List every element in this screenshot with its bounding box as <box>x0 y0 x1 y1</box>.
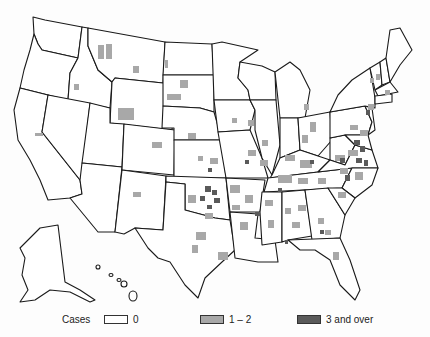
state-mississippi <box>260 192 282 245</box>
state-maine <box>386 28 412 82</box>
state-alaska <box>20 225 95 302</box>
legend-item-3-plus: 3 and over <box>297 314 373 325</box>
legend-item-1-2: 1 – 2 <box>200 314 251 325</box>
state-colorado <box>122 124 175 175</box>
legend-title: Cases <box>62 314 90 325</box>
state-florida <box>288 238 360 300</box>
state-connecticut-ri <box>375 94 392 104</box>
state-new-mexico <box>115 170 166 234</box>
legend-item-0: 0 <box>104 314 139 325</box>
us-county-case-map <box>0 0 430 337</box>
state-iowa <box>214 100 255 132</box>
legend-swatch-zero <box>104 315 128 324</box>
state-hawaii <box>96 265 137 301</box>
state-ohio <box>298 112 332 156</box>
map-legend: Cases 0 1 – 2 3 and over <box>0 310 430 330</box>
legend-swatch-low <box>200 315 224 324</box>
state-north-dakota <box>163 42 214 75</box>
legend-label: 1 – 2 <box>229 314 251 325</box>
legend-label: 0 <box>133 314 139 325</box>
legend-swatch-high <box>297 315 321 324</box>
legend-label: 3 and over <box>326 314 373 325</box>
